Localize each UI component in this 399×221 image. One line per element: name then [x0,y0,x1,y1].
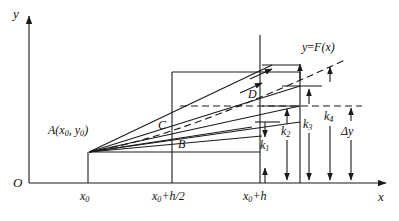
origin-label: O [13,176,22,189]
axis-label-y: y [13,7,19,20]
point-label-d: D [248,88,257,100]
increment-label-k1: k1 [260,139,269,153]
xtick-label-2: x0+h [243,190,267,204]
diagram-canvas: y x O x0 x0+h/2 x0+h A(x0, y0) B C D y=F… [0,0,399,221]
point-label-b: B [178,138,185,150]
point-label-c: C [158,119,166,131]
increment-label-delta-y: Δy [341,125,353,137]
point-label-a: A(x0, y0) [48,124,88,138]
curve-label: y=F(x) [302,41,335,53]
increment-label-k3: k3 [303,118,312,132]
diagram-svg [0,0,399,221]
xtick-label-0: x0 [80,190,89,204]
increment-label-k2: k2 [281,125,290,139]
xtick-label-1: x0+h/2 [152,190,185,204]
increment-label-k4: k4 [324,110,333,124]
axis-label-x: x [378,190,384,203]
